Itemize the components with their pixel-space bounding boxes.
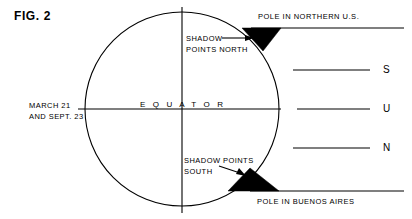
shadow-south-annotation: SHADOW POINTS SOUTH xyxy=(184,155,254,177)
shadow-south-line-2: SOUTH xyxy=(184,166,254,177)
shadow-north-line-1: SHADOW xyxy=(186,34,222,43)
figure-diagram: FIG. 2 MARCH 21 AND SEPT. 23 E Q U A T O… xyxy=(0,0,412,219)
figure-title: FIG. 2 xyxy=(14,11,51,22)
shadow-north-line-2: POINTS NORTH xyxy=(186,44,248,55)
equinox-date-label: MARCH 21 AND SEPT. 23 xyxy=(29,100,84,122)
pole-south-annotation: POLE IN BUENOS AIRES xyxy=(257,196,355,207)
equator-label: E Q U A T O R xyxy=(140,99,226,110)
sun-ray-letter-s: S xyxy=(383,64,390,75)
sun-ray-letter-n: N xyxy=(383,142,390,153)
shadow-north-annotation: SHADOW POINTS NORTH xyxy=(186,33,248,55)
shadow-south-line-1: SHADOW POINTS xyxy=(184,156,254,165)
equinox-date-line-1: MARCH 21 xyxy=(29,101,71,110)
sun-ray-letter-u: U xyxy=(383,103,390,114)
pole-north-annotation: POLE IN NORTHERN U.S. xyxy=(258,11,359,22)
equinox-date-line-2: AND SEPT. 23 xyxy=(29,111,84,122)
